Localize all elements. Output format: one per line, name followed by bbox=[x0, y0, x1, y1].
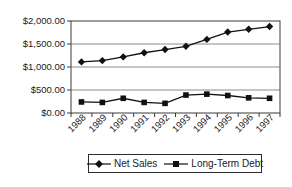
line-chart: $0.00$500.00$1,000.00$1,500.00$2,000.001… bbox=[0, 0, 292, 150]
x-axis-tick-label: 1993 bbox=[170, 112, 193, 135]
x-axis-tick-label: 1995 bbox=[211, 112, 234, 135]
data-point-square bbox=[204, 91, 210, 97]
data-point-square bbox=[141, 100, 147, 106]
legend-item-net-sales: Net Sales bbox=[87, 158, 157, 169]
legend-label-net-sales: Net Sales bbox=[114, 158, 157, 169]
data-point-square bbox=[267, 95, 273, 101]
y-axis-tick-label: $2,000.00 bbox=[23, 15, 65, 26]
x-axis-tick-label: 1994 bbox=[191, 112, 214, 135]
x-axis-tick-label: 1996 bbox=[232, 112, 255, 135]
net-sales-marker-icon bbox=[87, 159, 111, 169]
y-axis-tick-label: $1,500.00 bbox=[23, 38, 65, 49]
data-point-square bbox=[79, 99, 85, 105]
data-point-square bbox=[246, 95, 252, 101]
long-term-debt-marker-icon bbox=[164, 159, 188, 169]
data-point-square bbox=[100, 100, 106, 106]
data-point-square bbox=[225, 93, 231, 99]
x-axis-tick-label: 1989 bbox=[86, 112, 109, 135]
data-point-square bbox=[162, 101, 168, 107]
data-point-square bbox=[183, 92, 189, 98]
y-axis-tick-label: $0.00 bbox=[41, 107, 65, 118]
legend-item-long-term-debt: Long-Term Debt bbox=[164, 158, 263, 169]
data-point-square bbox=[120, 95, 126, 101]
x-axis-tick-label: 1992 bbox=[149, 112, 172, 135]
x-axis-tick-label: 1997 bbox=[253, 112, 276, 135]
chart-container: $0.00$500.00$1,000.00$1,500.00$2,000.001… bbox=[0, 0, 292, 187]
x-axis-tick-label: 1988 bbox=[65, 112, 88, 135]
x-axis-tick-label: 1990 bbox=[107, 112, 130, 135]
y-axis-tick-label: $500.00 bbox=[31, 84, 65, 95]
y-axis-tick-label: $1,000.00 bbox=[23, 61, 65, 72]
x-axis-tick-label: 1991 bbox=[128, 112, 151, 135]
chart-legend: Net Sales Long-Term Debt bbox=[88, 154, 262, 173]
legend-label-long-term-debt: Long-Term Debt bbox=[191, 158, 263, 169]
